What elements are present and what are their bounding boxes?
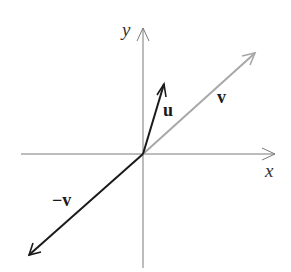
y-axis-label: y — [120, 19, 131, 40]
y-axis — [137, 28, 149, 268]
x-axis-label: x — [264, 160, 274, 181]
vector-u-label: u — [163, 100, 173, 120]
vector-neg-v — [29, 154, 143, 255]
vector-v-label: v — [217, 87, 226, 107]
vector-diagram: y x u v −v — [0, 0, 291, 272]
vector-neg-v-label: −v — [52, 190, 71, 210]
vector-v — [143, 53, 255, 154]
